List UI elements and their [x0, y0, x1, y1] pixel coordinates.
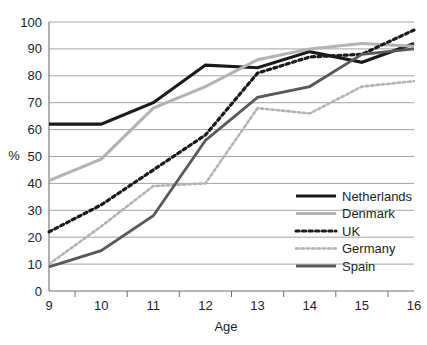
- y-axis-tick-labels: 0102030405060708090100: [20, 15, 42, 299]
- chart-canvas: 0102030405060708090100 910111213141516 %…: [0, 0, 427, 345]
- line-chart: 0102030405060708090100 910111213141516 %…: [0, 0, 427, 345]
- x-axis-title: Age: [214, 319, 237, 334]
- y-tick-label: 90: [28, 41, 42, 56]
- x-tick-label: 12: [198, 298, 212, 313]
- y-axis-title: %: [8, 148, 20, 163]
- chart-legend: NetherlandsDenmarkUKGermanySpain: [296, 189, 413, 274]
- x-tick-label: 14: [302, 298, 316, 313]
- x-tick-label: 15: [355, 298, 369, 313]
- x-tick-label: 11: [147, 298, 161, 313]
- legend-label: Denmark: [342, 206, 395, 221]
- x-tick-label: 10: [94, 298, 108, 313]
- series-line: [49, 44, 414, 181]
- x-tick-label: 13: [250, 298, 264, 313]
- x-axis-tick-labels: 910111213141516: [45, 298, 421, 313]
- y-tick-label: 30: [28, 203, 42, 218]
- legend-label: Germany: [342, 241, 396, 256]
- y-tick-label: 50: [28, 149, 42, 164]
- y-tick-label: 20: [28, 230, 42, 245]
- y-tick-label: 60: [28, 122, 42, 137]
- legend-label: Spain: [342, 259, 375, 274]
- legend-label: UK: [342, 224, 360, 239]
- y-tick-label: 40: [28, 176, 42, 191]
- y-tick-label: 10: [28, 257, 42, 272]
- y-tick-label: 100: [20, 15, 42, 30]
- x-tick-label: 9: [45, 298, 52, 313]
- y-tick-label: 70: [28, 95, 42, 110]
- y-tick-label: 80: [28, 68, 42, 83]
- y-tick-label: 0: [35, 284, 42, 299]
- x-tick-label: 16: [407, 298, 421, 313]
- x-axis-ticks: [75, 291, 388, 297]
- legend-label: Netherlands: [342, 189, 413, 204]
